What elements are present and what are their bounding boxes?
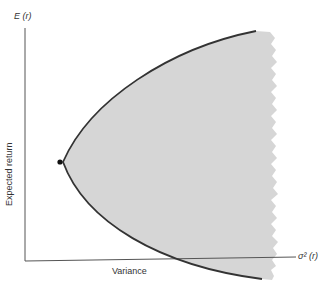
chart-canvas xyxy=(0,0,333,287)
minimum-variance-point xyxy=(57,159,62,164)
feasible-region xyxy=(63,31,278,280)
y-axis-symbol: E (r) xyxy=(14,11,32,21)
y-axis-title: Expected return xyxy=(4,142,14,206)
x-axis-title: Variance xyxy=(112,266,147,276)
x-axis-symbol: σ² (r) xyxy=(298,251,318,261)
